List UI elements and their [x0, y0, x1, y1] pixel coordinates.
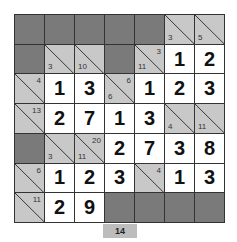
blocked-cell — [135, 193, 164, 222]
across-clue: 4 — [37, 76, 41, 85]
down-clue: 11 — [138, 62, 146, 71]
clue-cell: 66 — [105, 74, 134, 103]
answer-cell[interactable]: 3 — [195, 74, 224, 103]
clue-cell: 1120 — [75, 134, 104, 163]
clue-cell: 4 — [165, 104, 194, 133]
kakuro-grid: 3531011312413661231327134113112027386123… — [14, 14, 225, 223]
answer-cell[interactable]: 7 — [75, 104, 104, 133]
across-clue: 13 — [32, 106, 41, 115]
answer-cell[interactable]: 1 — [45, 164, 74, 193]
clue-cell: 10 — [75, 45, 104, 74]
answer-cell[interactable]: 2 — [75, 164, 104, 193]
down-clue: 11 — [198, 122, 206, 131]
blocked-cell — [105, 193, 134, 222]
down-clue: 10 — [78, 62, 87, 71]
clue-cell: 3 — [45, 45, 74, 74]
blocked-cell — [15, 15, 44, 44]
answer-cell[interactable]: 2 — [105, 134, 134, 163]
clue-cell: 3 — [165, 15, 194, 44]
answer-cell[interactable]: 1 — [105, 104, 134, 133]
down-clue: 3 — [168, 33, 172, 42]
blocked-cell — [15, 45, 44, 74]
answer-cell[interactable]: 2 — [165, 74, 194, 103]
down-clue: 11 — [78, 152, 86, 161]
clue-cell: 3 — [45, 134, 74, 163]
puzzle-number-label: 14 — [103, 224, 137, 238]
down-clue: 3 — [48, 62, 52, 71]
answer-cell[interactable]: 9 — [75, 193, 104, 222]
answer-cell[interactable]: 3 — [75, 74, 104, 103]
answer-cell[interactable]: 3 — [135, 104, 164, 133]
blocked-cell — [105, 45, 134, 74]
clue-cell: 6 — [15, 164, 44, 193]
down-clue: 6 — [108, 92, 112, 101]
answer-cell[interactable]: 3 — [105, 164, 134, 193]
blocked-cell — [165, 193, 194, 222]
across-clue: 6 — [37, 166, 41, 175]
clue-cell: 11 — [15, 193, 44, 222]
answer-cell[interactable]: 2 — [45, 193, 74, 222]
blocked-cell — [195, 193, 224, 222]
across-clue: 4 — [157, 166, 161, 175]
clue-cell: 5 — [195, 15, 224, 44]
down-clue: 3 — [48, 152, 52, 161]
blocked-cell — [45, 15, 74, 44]
answer-cell[interactable]: 8 — [195, 134, 224, 163]
clue-cell: 4 — [135, 164, 164, 193]
answer-cell[interactable]: 1 — [165, 164, 194, 193]
across-clue: 6 — [127, 76, 131, 85]
blocked-cell — [15, 134, 44, 163]
blocked-cell — [135, 15, 164, 44]
across-clue: 3 — [157, 47, 161, 56]
clue-cell: 11 — [195, 104, 224, 133]
clue-cell: 4 — [15, 74, 44, 103]
answer-cell[interactable]: 3 — [165, 134, 194, 163]
across-clue: 11 — [33, 195, 41, 204]
clue-cell: 13 — [15, 104, 44, 133]
down-clue: 5 — [198, 33, 202, 42]
answer-cell[interactable]: 7 — [135, 134, 164, 163]
clue-cell: 113 — [135, 45, 164, 74]
down-clue: 4 — [168, 122, 172, 131]
answer-cell[interactable]: 2 — [45, 104, 74, 133]
answer-cell[interactable]: 1 — [165, 45, 194, 74]
across-clue: 20 — [92, 136, 101, 145]
answer-cell[interactable]: 1 — [135, 74, 164, 103]
answer-cell[interactable]: 3 — [195, 164, 224, 193]
answer-cell[interactable]: 1 — [45, 74, 74, 103]
blocked-cell — [75, 15, 104, 44]
answer-cell[interactable]: 2 — [195, 45, 224, 74]
blocked-cell — [105, 15, 134, 44]
